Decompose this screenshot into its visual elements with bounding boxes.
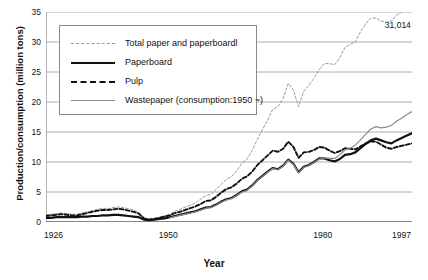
x-axis-title: Year (0, 258, 428, 269)
x-tick-1980: 1980 (313, 230, 332, 240)
y-tick-25: 25 (13, 67, 41, 77)
y-tick-20: 20 (13, 97, 41, 107)
series-line-3 (170, 112, 412, 218)
legend-swatch-paperboard (71, 57, 115, 67)
y-tick-35: 35 (13, 7, 41, 17)
y-tick-10: 10 (13, 157, 41, 167)
legend-label-wastepaper: Wastepaper (consumption:1950 ~) (125, 95, 263, 105)
y-tick-15: 15 (13, 127, 41, 137)
legend-item-total: Total paper and paperboardl (60, 33, 256, 52)
series-line-1 (46, 133, 412, 220)
y-tick-30: 30 (13, 37, 41, 47)
x-tick-1926: 1926 (44, 230, 63, 240)
legend-item-wastepaper: Wastepaper (consumption:1950 ~) (60, 90, 256, 109)
legend-item-pulp: Pulp (60, 71, 256, 90)
x-tick-1997: 1997 (392, 230, 411, 240)
legend-swatch-wastepaper (71, 95, 115, 105)
chart-legend: Total paper and paperboardl Paperboard P… (59, 25, 257, 115)
legend-swatch-pulp (71, 76, 115, 86)
y-tick-0: 0 (13, 217, 41, 227)
chart-container: Production/consumption (million tons) Ye… (0, 0, 428, 280)
legend-item-paperboard: Paperboard (60, 52, 256, 71)
series-line-2 (46, 142, 412, 220)
x-tick-1950: 1950 (159, 230, 178, 240)
y-tick-5: 5 (13, 187, 41, 197)
legend-label-pulp: Pulp (125, 76, 143, 86)
legend-swatch-total (71, 38, 115, 48)
legend-label-total: Total paper and paperboardl (125, 38, 238, 48)
legend-label-paperboard: Paperboard (125, 57, 172, 67)
